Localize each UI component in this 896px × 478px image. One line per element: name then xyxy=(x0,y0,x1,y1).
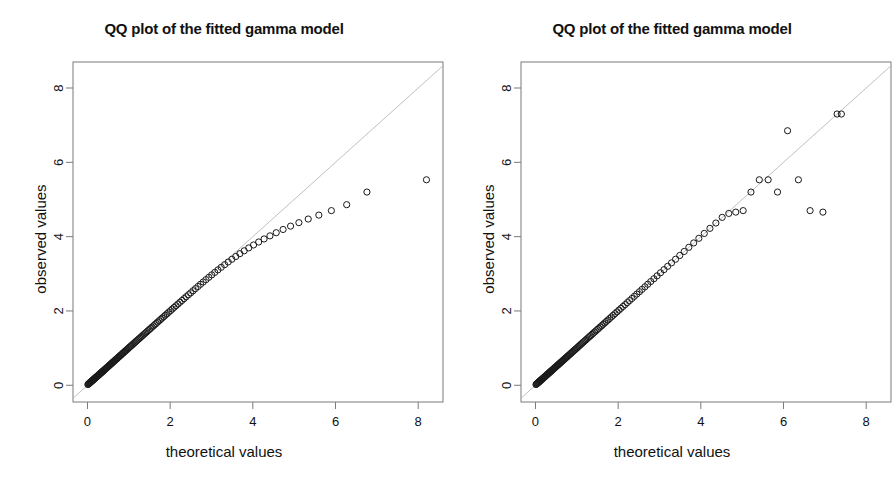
data-point xyxy=(305,216,311,222)
data-point xyxy=(280,226,286,232)
data-point xyxy=(296,220,302,226)
panel-left: QQ plot of the fitted gamma model 024680… xyxy=(0,0,448,478)
x-tick-label: 8 xyxy=(415,414,422,429)
data-point xyxy=(328,208,334,214)
panel-left-ylabel: observed values xyxy=(32,129,49,349)
x-tick-label: 6 xyxy=(332,414,339,429)
panel-right: QQ plot of the fitted gamma model 024680… xyxy=(448,0,896,478)
panel-right-plot-area: 0246802468 xyxy=(448,0,896,478)
x-tick-label: 4 xyxy=(249,414,256,429)
data-point xyxy=(316,212,322,218)
x-tick-label: 8 xyxy=(863,414,870,429)
data-point xyxy=(344,202,350,208)
data-point xyxy=(267,233,273,239)
data-points xyxy=(533,111,845,388)
data-point xyxy=(838,111,844,117)
panel-left-plot-area: 0246802468 xyxy=(0,0,448,478)
data-point xyxy=(795,177,801,183)
data-point xyxy=(807,208,813,214)
y-tick-label: 0 xyxy=(500,382,515,389)
data-point xyxy=(733,209,739,215)
panel-right-ylabel-wrap: observed values xyxy=(462,0,490,478)
panel-right-ylabel: observed values xyxy=(480,129,497,349)
y-tick-label: 6 xyxy=(500,159,515,166)
y-tick-label: 8 xyxy=(52,84,67,91)
qq-plot-figure: QQ plot of the fitted gamma model 024680… xyxy=(0,0,896,478)
data-point xyxy=(423,177,429,183)
x-tick-label: 2 xyxy=(615,414,622,429)
data-point xyxy=(261,236,267,242)
panel-left-ylabel-wrap: observed values xyxy=(14,0,42,478)
panel-right-xlabel: theoretical values xyxy=(448,443,896,460)
y-tick-label: 4 xyxy=(500,233,515,240)
data-point xyxy=(273,230,279,236)
data-points xyxy=(85,177,430,388)
data-point xyxy=(287,223,293,229)
x-tick-label: 2 xyxy=(167,414,174,429)
data-point xyxy=(756,177,762,183)
x-tick-label: 4 xyxy=(697,414,704,429)
data-point xyxy=(765,177,771,183)
data-point xyxy=(364,189,370,195)
x-tick-label: 0 xyxy=(532,414,539,429)
y-tick-label: 0 xyxy=(52,382,67,389)
data-point xyxy=(774,189,780,195)
y-tick-label: 2 xyxy=(500,307,515,314)
data-point xyxy=(820,209,826,215)
panel-left-xlabel: theoretical values xyxy=(0,443,448,460)
x-tick-label: 6 xyxy=(780,414,787,429)
y-tick-label: 8 xyxy=(500,84,515,91)
y-tick-label: 2 xyxy=(52,307,67,314)
y-tick-label: 4 xyxy=(52,233,67,240)
data-point xyxy=(740,208,746,214)
x-tick-label: 0 xyxy=(84,414,91,429)
y-tick-label: 6 xyxy=(52,159,67,166)
data-point xyxy=(784,128,790,134)
